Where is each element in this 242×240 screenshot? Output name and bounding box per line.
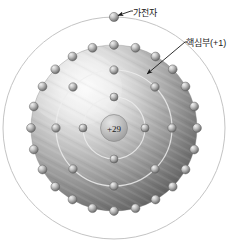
electron [29, 145, 38, 154]
electron [38, 165, 47, 174]
electron [110, 66, 118, 74]
electron [110, 207, 119, 216]
electron [51, 65, 60, 74]
electron [69, 165, 77, 173]
electron [110, 182, 118, 190]
diagram-canvas: +29 [0, 0, 242, 240]
electron [38, 82, 47, 91]
electron [168, 182, 177, 191]
electron [79, 124, 87, 132]
electron [151, 83, 159, 91]
electron [131, 43, 140, 52]
valence-electron-label: 가전자 [133, 6, 157, 19]
electron [168, 65, 177, 74]
valence-leader-line [118, 11, 131, 16]
electron [52, 124, 60, 132]
electron [68, 52, 77, 61]
electron [190, 145, 199, 154]
electron [27, 124, 36, 133]
electron [168, 124, 176, 132]
electron [190, 102, 199, 111]
electron [69, 83, 77, 91]
electron [29, 102, 38, 111]
electron [110, 155, 118, 163]
electron [151, 195, 160, 204]
electron [193, 124, 202, 133]
electron [110, 41, 119, 50]
electron [151, 52, 160, 61]
electron [131, 204, 140, 213]
electron [141, 124, 149, 132]
core-label: 핵심부(+1) [186, 36, 226, 49]
valence-electron [109, 12, 118, 21]
electron [88, 43, 97, 52]
electron [181, 82, 190, 91]
electron [151, 165, 159, 173]
electron [110, 93, 118, 101]
electron [88, 204, 97, 213]
electron [68, 195, 77, 204]
nucleus-charge-label: +29 [107, 124, 122, 134]
electron [181, 165, 190, 174]
electron [51, 182, 60, 191]
nucleus: +29 [101, 115, 128, 142]
